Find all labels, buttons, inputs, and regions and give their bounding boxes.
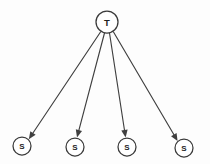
node-s1[interactable]: S: [13, 137, 31, 155]
node-s4[interactable]: S: [175, 139, 193, 157]
edges-group: [29, 32, 178, 141]
node-label: S: [181, 144, 187, 153]
edge-line: [79, 33, 105, 132]
edge-t-to-s3: [110, 33, 128, 137]
arrowhead-icon: [121, 129, 127, 137]
nodes-group: TSSSS: [13, 11, 193, 157]
diagram-canvas: TSSSS: [0, 0, 210, 164]
arrowhead-icon: [171, 133, 178, 141]
arrowhead-icon: [29, 131, 36, 139]
edge-line: [32, 32, 100, 134]
arrowhead-icon: [76, 129, 82, 137]
node-t[interactable]: T: [96, 11, 118, 33]
node-s2[interactable]: S: [66, 138, 84, 156]
node-label: S: [72, 143, 78, 152]
edge-t-to-s2: [76, 33, 105, 137]
node-label: S: [124, 143, 130, 152]
edge-t-to-s1: [29, 32, 101, 139]
node-label: S: [19, 142, 25, 151]
node-s3[interactable]: S: [118, 138, 136, 156]
star-topology-graph: TSSSS: [0, 0, 210, 164]
node-label: T: [104, 17, 110, 28]
